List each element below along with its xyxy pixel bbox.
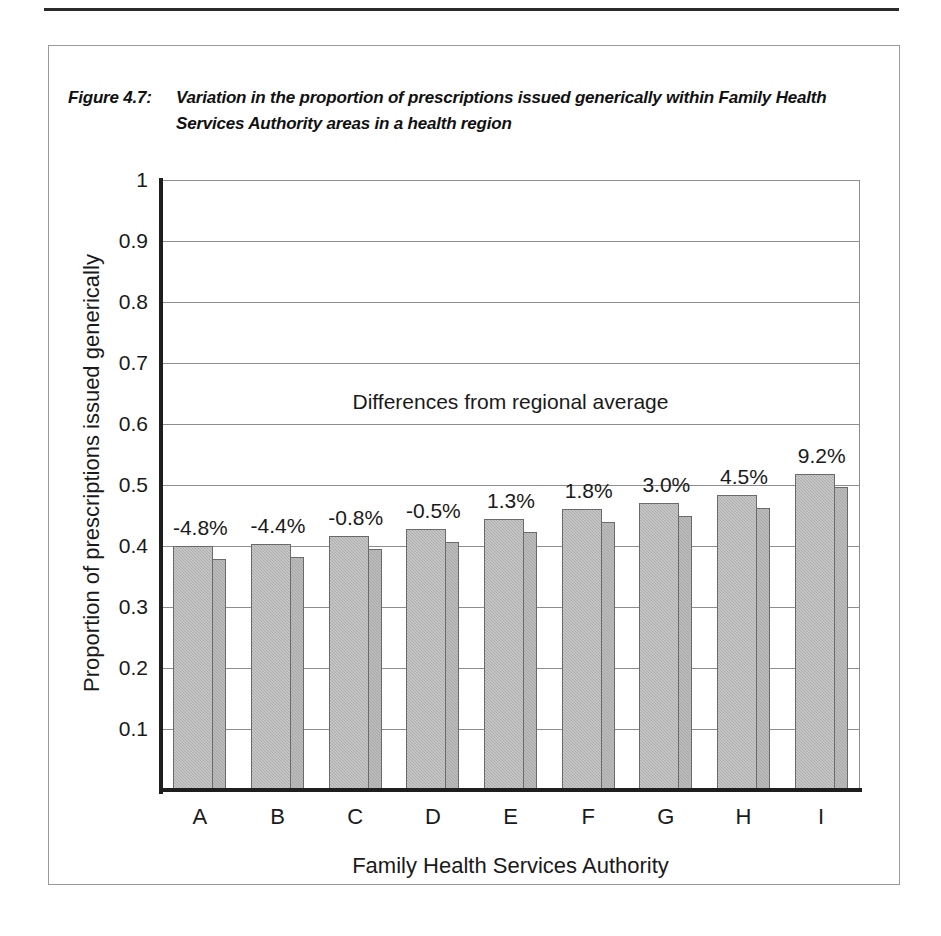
gridline	[161, 180, 860, 181]
plot-area: Differences from regional average -4.8%-…	[161, 180, 860, 790]
x-axis-tick-label: H	[704, 804, 784, 830]
bar-front-face	[639, 503, 679, 790]
bar-value-label: -4.8%	[161, 516, 239, 540]
y-axis-line	[159, 178, 163, 794]
bar-side-face	[369, 549, 382, 790]
gridline	[161, 363, 860, 364]
bar[interactable]: 9.2%	[795, 474, 848, 790]
chart-annotation: Differences from regional average	[161, 390, 860, 414]
y-axis-tick-label: 1	[136, 168, 148, 192]
gridline	[161, 302, 860, 303]
figure-title: Variation in the proportion of prescript…	[176, 85, 868, 137]
figure-number: Figure 4.7:	[68, 85, 176, 111]
y-axis-tick-label: 0.1	[119, 717, 148, 741]
bar[interactable]: -4.8%	[173, 546, 226, 790]
bar-front-face	[484, 519, 524, 790]
y-axis-tick-label: 0.4	[119, 534, 148, 558]
bar-side-face	[679, 516, 692, 790]
x-axis-line	[159, 788, 862, 792]
gridline	[161, 424, 860, 425]
bar-value-label: 1.8%	[550, 479, 628, 503]
bar[interactable]: 1.8%	[562, 509, 615, 790]
bar[interactable]: 4.5%	[717, 495, 770, 790]
bar[interactable]: 1.3%	[484, 519, 537, 790]
bar-front-face	[406, 529, 446, 790]
bar-front-face	[717, 495, 757, 790]
bar-front-face	[329, 536, 369, 790]
x-axis-title: Family Health Services Authority	[161, 853, 860, 879]
gridline	[161, 241, 860, 242]
bar-value-label: 1.3%	[472, 489, 550, 513]
y-axis-tick-label: 0.7	[119, 351, 148, 375]
bar[interactable]: -0.5%	[406, 529, 459, 790]
x-axis-tick-label: C	[315, 804, 395, 830]
y-axis-tick-label: 0.9	[119, 229, 148, 253]
bar-side-face	[446, 542, 459, 790]
bar-chart: 10.90.80.70.60.50.40.30.20.1 Proportion …	[60, 160, 880, 860]
bar-value-label: -0.5%	[394, 499, 472, 523]
bar-value-label: -4.4%	[239, 514, 317, 538]
bar-side-face	[291, 557, 304, 790]
x-axis-tick-label: D	[393, 804, 473, 830]
figure-caption: Figure 4.7: Variation in the proportion …	[68, 85, 868, 137]
bar-side-face	[835, 487, 848, 790]
bar-side-face	[602, 522, 615, 790]
bar-value-label: 4.5%	[705, 465, 783, 489]
bar-front-face	[562, 509, 602, 790]
y-axis-tick-label: 0.2	[119, 656, 148, 680]
y-axis-tick-label: 0.6	[119, 412, 148, 436]
x-axis-tick-label: F	[548, 804, 628, 830]
bar-side-face	[757, 508, 770, 790]
bar-front-face	[173, 546, 213, 790]
x-axis-tick-label: A	[160, 804, 240, 830]
y-axis-title: Proportion of prescriptions issued gener…	[79, 193, 105, 753]
bar-value-label: 3.0%	[627, 473, 705, 497]
bar-side-face	[524, 532, 537, 790]
bar[interactable]: -4.4%	[251, 544, 304, 790]
bar-side-face	[213, 559, 226, 790]
bar-front-face	[251, 544, 291, 790]
x-axis-tick-label: B	[238, 804, 318, 830]
y-axis-tick-label: 0.3	[119, 595, 148, 619]
x-axis-tick-label: I	[781, 804, 861, 830]
y-axis-tick-label: 0.8	[119, 290, 148, 314]
bar-value-label: 9.2%	[783, 444, 861, 468]
bar-value-label: -0.8%	[317, 506, 395, 530]
bar-front-face	[795, 474, 835, 790]
x-axis-tick-label: G	[626, 804, 706, 830]
x-axis-tick-label: E	[471, 804, 551, 830]
y-axis-tick-label: 0.5	[119, 473, 148, 497]
page-header-rule	[44, 8, 899, 11]
bar[interactable]: -0.8%	[329, 536, 382, 790]
bar[interactable]: 3.0%	[639, 503, 692, 790]
